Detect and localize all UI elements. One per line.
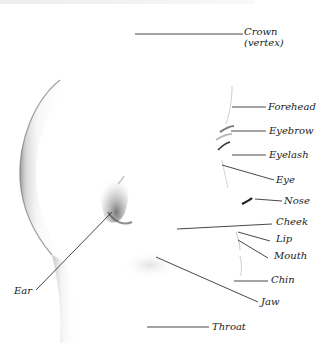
leader-mouth: [238, 240, 268, 258]
label-crown: Crown (vertex): [244, 26, 284, 48]
label-lip: Lip: [276, 233, 292, 244]
label-jaw: Jaw: [261, 296, 280, 307]
skull-outline: [20, 80, 72, 255]
label-throat: Throat: [212, 321, 246, 332]
ear-shape: [98, 172, 132, 224]
label-eyelash: Eyelash: [269, 149, 309, 160]
leader-eye: [222, 165, 274, 180]
neck-outline: [52, 255, 78, 343]
leader-lip: [238, 232, 270, 241]
face-profile: [122, 86, 252, 279]
leader-nose: [255, 199, 282, 201]
leader-lines: [36, 34, 282, 327]
label-ear: Ear: [14, 285, 32, 296]
label-nose: Nose: [284, 195, 310, 206]
label-crown-text: Crown: [244, 26, 277, 37]
label-crown-subtext: (vertex): [244, 37, 284, 48]
label-chin: Chin: [271, 274, 295, 285]
label-forehead: Forehead: [268, 101, 316, 112]
label-eye: Eye: [276, 174, 295, 185]
label-mouth: Mouth: [274, 250, 307, 261]
leader-ear: [36, 212, 112, 290]
head-illustration: [0, 0, 330, 343]
label-cheek: Cheek: [276, 216, 308, 227]
leader-jaw: [156, 257, 258, 302]
leader-cheek: [177, 224, 272, 229]
label-eyebrow: Eyebrow: [269, 125, 314, 136]
